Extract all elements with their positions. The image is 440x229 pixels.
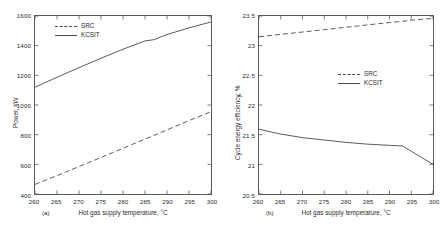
panel-b-legend-item-src: SRC [338, 70, 383, 79]
panel-a-plot-area [34, 15, 212, 195]
panel-b-legend-label-kcsit: KCSIT [364, 80, 383, 86]
panel-a-legend-item-src: SRC [55, 22, 100, 31]
y-tick-label: 23 [232, 42, 255, 49]
panel-b-legend-label-src: SRC [364, 71, 377, 77]
dashed-line-icon [338, 74, 360, 75]
panel-a-y-axis-label: Power, kW [12, 97, 19, 128]
panel-b-caption: (b) [266, 209, 274, 216]
panel-a-tickmarks [35, 16, 211, 194]
x-tick-label: 275 [95, 198, 106, 205]
x-tick-label: 280 [341, 198, 352, 205]
x-tick-label: 290 [385, 198, 396, 205]
solid-line-icon [338, 83, 360, 84]
x-tick-label: 265 [51, 198, 62, 205]
panel-a-legend-label-kcsit: KCSIT [81, 32, 100, 38]
panel-a-series-src [35, 112, 211, 185]
panel-a-legend: SRC KCSIT [55, 22, 100, 40]
panel-b-legend-item-kcsit: KCSIT [338, 79, 383, 88]
y-tick-label: 21 [232, 162, 255, 169]
dashed-line-icon [55, 26, 77, 27]
panel-b-series-src [259, 18, 433, 36]
panel-b-plot-area [258, 15, 434, 195]
x-tick-label: 285 [140, 198, 151, 205]
y-tick-label: 1200 [8, 72, 31, 79]
figure-two-panel-line-charts: 4006008001000120014001600 26026527027528… [0, 0, 440, 229]
panel-a-legend-item-kcsit: KCSIT [55, 31, 100, 40]
x-tick-label: 265 [275, 198, 286, 205]
x-tick-label: 260 [29, 198, 40, 205]
solid-line-icon [55, 35, 77, 36]
x-tick-label: 280 [118, 198, 129, 205]
y-tick-label: 1400 [8, 42, 31, 49]
y-tick-label: 22.5 [232, 72, 255, 79]
panel-b-legend: SRC KCSIT [338, 70, 383, 88]
x-tick-label: 290 [162, 198, 173, 205]
x-tick-label: 295 [407, 198, 418, 205]
y-tick-label: 20.5 [232, 192, 255, 199]
x-tick-label: 300 [207, 198, 218, 205]
panel-b-svg [259, 16, 433, 194]
panel-a-caption: (a) [42, 209, 50, 216]
panel-b-curves [259, 16, 433, 194]
x-tick-label: 275 [319, 198, 330, 205]
panel-b-tickmarks [259, 16, 433, 194]
panel-a-x-axis-label: Hot gas supply temperature, °C [34, 209, 212, 216]
panel-b: 20.52121.52222.52323.5 26026527027528028… [220, 0, 440, 229]
panel-a-legend-label-src: SRC [81, 23, 94, 29]
panel-a-curves [35, 16, 211, 194]
x-tick-label: 295 [184, 198, 195, 205]
y-tick-label: 23.5 [232, 12, 255, 19]
panel-b-series-kcsit [259, 129, 433, 164]
y-tick-label: 800 [8, 132, 31, 139]
x-tick-label: 300 [429, 198, 440, 205]
y-tick-label: 600 [8, 162, 31, 169]
panel-b-x-axis-label: Hot gas supply temperature, °C [258, 209, 434, 216]
x-tick-label: 260 [253, 198, 264, 205]
x-tick-label: 270 [297, 198, 308, 205]
y-tick-label: 400 [8, 192, 31, 199]
x-tick-label: 285 [363, 198, 374, 205]
x-tick-label: 270 [73, 198, 84, 205]
panel-a: 4006008001000120014001600 26026527027528… [0, 0, 220, 229]
y-tick-label: 1600 [8, 12, 31, 19]
panel-b-y-axis-label: Cycle energy efficiency, % [234, 86, 241, 160]
panel-a-svg [35, 16, 211, 194]
